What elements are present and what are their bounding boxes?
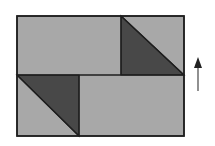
quilt-diagram: [0, 0, 215, 146]
up-arrow-icon: [194, 57, 202, 91]
